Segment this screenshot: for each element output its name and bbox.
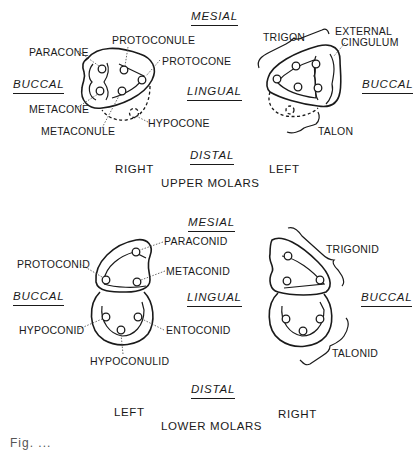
paracone-label: PARACONE xyxy=(29,47,89,58)
talonid-label: TALONID xyxy=(332,348,378,359)
lower-left-side-label: LEFT xyxy=(114,407,145,419)
protoconid-label: PROTOCONID xyxy=(17,259,90,270)
paraconid-label: PARACONID xyxy=(164,236,227,247)
lower-buccal-right-label: BUCCAL xyxy=(361,292,412,307)
upper-left-side-label: LEFT xyxy=(269,164,300,176)
upper-right-side-label: RIGHT xyxy=(115,164,154,176)
lower-molars-title: LOWER MOLARS xyxy=(161,421,262,433)
upper-molars-title: UPPER MOLARS xyxy=(161,178,260,190)
upper-mesial-label: MESIAL xyxy=(191,11,238,26)
upper-distal-label: DISTAL xyxy=(190,150,234,165)
hypocone-label: HYPOCONE xyxy=(148,118,210,129)
cingulum-label: CINGULUM xyxy=(341,37,399,48)
hypoconulid-label: HYPOCONULID xyxy=(90,356,169,367)
metaconid-label: METACONID xyxy=(166,266,230,277)
upper-left-molar xyxy=(258,29,345,133)
figure-caption: Fig. ... xyxy=(10,436,51,450)
upper-buccal-left-label: BUCCAL xyxy=(13,79,64,94)
trigon-label: TRIGON xyxy=(263,32,305,43)
talon-label: TALON xyxy=(318,126,353,137)
trigonid-label: TRIGONID xyxy=(326,244,379,255)
protocone-label: PROTOCONE xyxy=(162,56,231,67)
protoconule-label: PROTOCONULE xyxy=(112,35,195,46)
upper-buccal-right-label: BUCCAL xyxy=(362,79,413,94)
hypoconid-label: HYPOCONID xyxy=(19,325,84,336)
entoconid-label: ENTOCONID xyxy=(166,325,231,336)
lower-right-side-label: RIGHT xyxy=(278,409,317,421)
metacone-label: METACONE xyxy=(29,104,89,115)
lower-mesial-label: MESIAL xyxy=(188,217,235,232)
lower-lingual-label: LINGUAL xyxy=(187,292,242,307)
external-label: EXTERNAL xyxy=(335,26,392,37)
lower-distal-label: DISTAL xyxy=(191,384,235,399)
lower-buccal-left-label: BUCCAL xyxy=(13,291,64,306)
upper-lingual-label: LINGUAL xyxy=(187,86,242,101)
upper-right-molar xyxy=(78,47,160,128)
lower-left-molar xyxy=(79,240,165,354)
metaconule-label: METACONULE xyxy=(41,126,115,137)
